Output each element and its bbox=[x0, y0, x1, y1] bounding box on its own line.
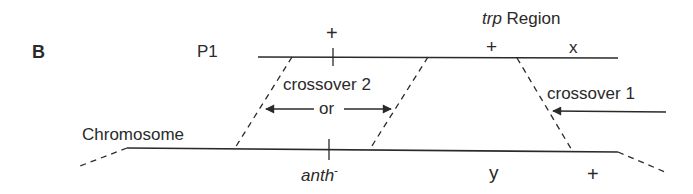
trp-x-marker: x bbox=[569, 39, 578, 56]
p1-left-plus: + bbox=[326, 23, 338, 43]
anth-marker: anth- bbox=[301, 165, 338, 184]
or-label: or bbox=[319, 100, 334, 117]
crossover2-left-dashed bbox=[235, 57, 292, 148]
chromosome-left-dashed bbox=[80, 148, 127, 166]
region-text: Region bbox=[502, 9, 561, 28]
panel-label: B bbox=[32, 43, 45, 61]
crossover1-dashed bbox=[517, 58, 573, 152]
chromosome-plus-marker: + bbox=[587, 164, 599, 184]
trp-plus-marker: + bbox=[486, 37, 497, 56]
chromosome-right-dashed bbox=[618, 152, 665, 172]
trp-italic: trp bbox=[482, 9, 502, 28]
y-marker: y bbox=[489, 163, 499, 182]
crossover2-right-dashed bbox=[370, 57, 428, 149]
p1-label: P1 bbox=[197, 43, 218, 60]
crossover1-arrow bbox=[553, 111, 666, 112]
p1-strand-line bbox=[258, 57, 618, 58]
trp-region-label: trp Region bbox=[482, 10, 560, 27]
anth-superscript: - bbox=[334, 164, 338, 176]
anth-text: anth bbox=[301, 166, 334, 185]
crossover2-label: crossover 2 bbox=[283, 76, 371, 93]
chromosome-strand-line bbox=[127, 148, 618, 152]
chromosome-label: Chromosome bbox=[82, 126, 184, 143]
crossover1-label: crossover 1 bbox=[547, 85, 635, 102]
